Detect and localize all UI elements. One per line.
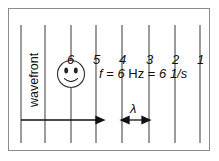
formula-unit-hz: Hz bbox=[128, 66, 144, 81]
wavelength-arrow bbox=[121, 117, 150, 124]
wavefront-number-5: 5 bbox=[93, 53, 100, 66]
wavefront-text-label: wavefront bbox=[27, 44, 40, 116]
formula-unit-inverse-seconds: 1/s bbox=[170, 66, 187, 81]
frequency-formula: f = 6 Hz = 6 1/s bbox=[99, 67, 187, 80]
smiley-eye-left-icon bbox=[64, 68, 68, 74]
formula-equals-2: = bbox=[144, 66, 159, 81]
wavefront-diagram: wavefront 6 5 4 3 2 1 f = 6 Hz = 6 1/s λ bbox=[0, 0, 219, 161]
wavefront-lines bbox=[21, 25, 200, 143]
wavefront-number-4: 4 bbox=[119, 53, 126, 66]
wavefront-number-2: 2 bbox=[172, 53, 179, 66]
wavelength-lambda-symbol: λ bbox=[130, 102, 136, 115]
smiley-eye-right-icon bbox=[74, 68, 78, 74]
formula-equals-1: = bbox=[103, 66, 118, 81]
wavefront-number-3: 3 bbox=[146, 53, 153, 66]
wavefront-number-1: 1 bbox=[197, 53, 204, 66]
propagation-arrow bbox=[21, 117, 104, 124]
wavefront-number-6: 6 bbox=[67, 53, 74, 66]
formula-value-1: 6 bbox=[117, 66, 124, 81]
